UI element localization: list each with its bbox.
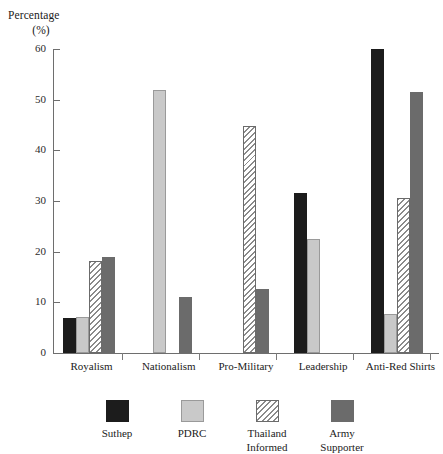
bar-informed-2 bbox=[243, 126, 256, 353]
y-axis-tick bbox=[53, 252, 60, 253]
y-axis-tick bbox=[53, 353, 60, 354]
chart-legend: SuthepPDRCThailandInformedArmySupporter bbox=[80, 400, 380, 448]
y-axis-tick bbox=[53, 100, 60, 101]
y-axis-tick-label: 30 bbox=[12, 194, 46, 206]
bar-pdrc-0 bbox=[76, 317, 89, 353]
bar-informed-0 bbox=[89, 261, 102, 353]
y-axis-tick-label: 10 bbox=[12, 295, 46, 307]
legend-item-informed[interactable]: ThailandInformed bbox=[230, 400, 304, 454]
legend-swatch-army bbox=[331, 400, 354, 422]
legend-swatch-informed bbox=[256, 400, 279, 422]
y-axis-title-label: Percentage bbox=[8, 8, 74, 23]
x-axis-category-label: Leadership bbox=[285, 360, 362, 372]
y-axis-title: Percentage (%) bbox=[8, 8, 74, 38]
y-axis-title-unit: (%) bbox=[8, 23, 74, 38]
bar-informed-4 bbox=[397, 198, 410, 353]
x-axis-line bbox=[53, 353, 439, 354]
y-axis-tick bbox=[53, 302, 60, 303]
bar-suthep-3 bbox=[294, 193, 307, 353]
legend-item-suthep[interactable]: Suthep bbox=[80, 400, 154, 441]
bar-army-2 bbox=[256, 289, 269, 353]
bar-pdrc-4 bbox=[384, 314, 397, 353]
y-axis-tick-label: 40 bbox=[12, 143, 46, 155]
bar-suthep-4 bbox=[371, 49, 384, 353]
y-axis-tick bbox=[53, 201, 60, 202]
legend-label-line2: Informed bbox=[247, 441, 288, 453]
y-axis-tick-label: 20 bbox=[12, 245, 46, 257]
bar-army-0 bbox=[102, 257, 115, 353]
x-axis-tick bbox=[353, 353, 354, 360]
y-axis-tick-label: 50 bbox=[12, 93, 46, 105]
legend-label: ThailandInformed bbox=[230, 427, 304, 454]
x-axis-tick bbox=[122, 353, 123, 360]
legend-label: ArmySupporter bbox=[305, 427, 379, 454]
y-axis-tick-label: 0 bbox=[12, 346, 46, 358]
legend-label: Suthep bbox=[80, 427, 154, 441]
bar-suthep-0 bbox=[63, 318, 76, 353]
legend-label: PDRC bbox=[155, 427, 229, 441]
legend-swatch-suthep bbox=[106, 400, 129, 422]
y-axis-tick bbox=[53, 150, 60, 151]
x-axis-category-label: Pro-Military bbox=[207, 360, 284, 372]
y-axis-tick bbox=[53, 49, 60, 50]
legend-item-pdrc[interactable]: PDRC bbox=[155, 400, 229, 441]
x-axis-category-label: Royalism bbox=[53, 360, 130, 372]
bar-army-4 bbox=[410, 92, 423, 353]
x-axis-category-label: Nationalism bbox=[130, 360, 207, 372]
x-axis-category-label: Anti-Red Shirts bbox=[362, 360, 439, 372]
x-axis-tick bbox=[199, 353, 200, 360]
x-axis-tick bbox=[430, 353, 431, 360]
legend-label-line2: Supporter bbox=[320, 441, 363, 453]
legend-swatch-pdrc bbox=[181, 400, 204, 422]
bar-pdrc-3 bbox=[307, 239, 320, 353]
x-axis-tick bbox=[276, 353, 277, 360]
bar-army-1 bbox=[179, 297, 192, 353]
bar-pdrc-1 bbox=[153, 90, 166, 353]
legend-item-army[interactable]: ArmySupporter bbox=[305, 400, 379, 454]
y-axis-tick-label: 60 bbox=[12, 42, 46, 54]
